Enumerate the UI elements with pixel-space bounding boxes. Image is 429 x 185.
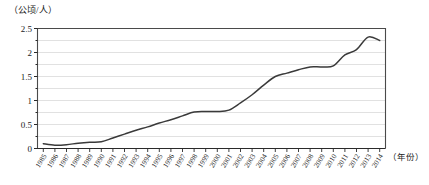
- x-axis-tick-label: 2009: [312, 152, 327, 169]
- x-axis-tick-label: 1995: [150, 152, 165, 169]
- x-axis-tick-label: 1996: [162, 152, 177, 169]
- data-series-line: [43, 37, 379, 145]
- x-axis-tick-label: 1989: [80, 152, 95, 169]
- y-axis-tick-label: 1: [28, 96, 33, 106]
- x-axis-tick-label: 2004: [254, 152, 269, 169]
- x-axis-tick-label: 2014: [370, 152, 385, 169]
- x-axis-tick-label: 2013: [359, 152, 374, 169]
- x-axis-tick-label: 2001: [220, 152, 235, 169]
- x-axis-tick-label: 2007: [289, 152, 304, 169]
- x-axis-tick-label: 1991: [104, 152, 119, 169]
- x-axis-tick-label: 1999: [196, 152, 211, 169]
- x-axis-tick-label: 1988: [69, 152, 84, 169]
- x-axis-tick-label: 2012: [347, 152, 362, 169]
- y-axis-tick-label: 2: [28, 48, 33, 58]
- x-axis-tick-label: 1986: [46, 152, 61, 169]
- x-axis-tick-label: 1998: [185, 152, 200, 169]
- x-axis-tick-label: 1985: [34, 152, 49, 169]
- x-axis-tick-label: 1992: [115, 152, 130, 169]
- x-axis-tick-label: 1990: [92, 152, 107, 169]
- line-chart-plot: 00.511.522.51985198619871988198919901991…: [0, 0, 429, 185]
- y-axis-tick-label: 0.5: [21, 120, 33, 130]
- y-axis-tick-label: 0: [28, 144, 33, 154]
- x-axis-tick-label: 2005: [266, 152, 281, 169]
- chart-figure: （公顷/人） （年份） 00.511.522.51985198619871988…: [0, 0, 429, 185]
- y-axis-tick-label: 2.5: [21, 24, 33, 34]
- x-axis-tick-label: 2006: [278, 152, 293, 169]
- x-axis-tick-label: 2010: [324, 152, 339, 169]
- x-axis-tick-label: 2000: [208, 152, 223, 169]
- y-axis-tick-label: 1.5: [21, 72, 33, 82]
- x-axis-tick-label: 1997: [173, 152, 188, 169]
- x-axis-tick-label: 2003: [243, 152, 258, 169]
- x-axis-tick-label: 2008: [301, 152, 316, 169]
- x-axis-tick-label: 2002: [231, 152, 246, 169]
- x-axis-tick-label: 1987: [57, 152, 72, 169]
- x-axis-tick-label: 1994: [138, 152, 153, 169]
- x-axis-tick-label: 1993: [127, 152, 142, 169]
